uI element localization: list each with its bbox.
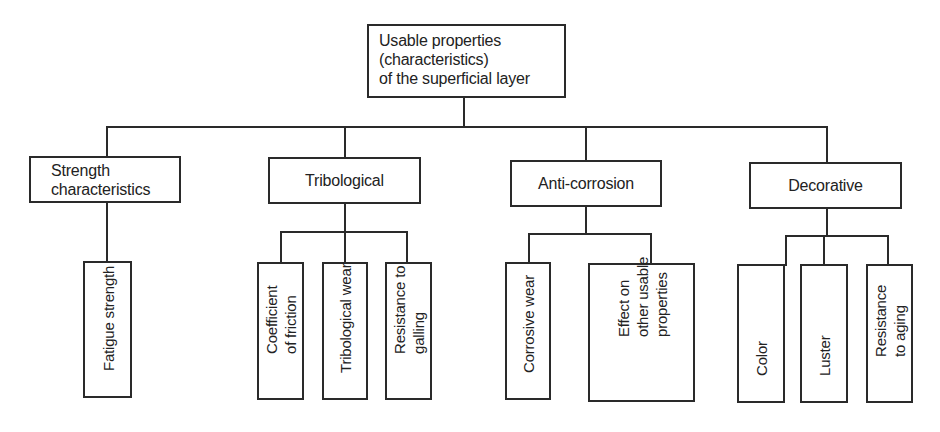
leaf-label-luster: Luster xyxy=(815,336,834,377)
strength-child-connector xyxy=(106,202,108,263)
root-node-label: Usable properties (characteristics) of t… xyxy=(379,31,530,88)
leaf-node-luster: Luster xyxy=(800,264,848,403)
leaf-node-corrosive-wear: Corrosive wear xyxy=(505,262,551,400)
decorative-drop-1 xyxy=(785,235,787,266)
decorative-bus-connector xyxy=(785,235,889,237)
category-node-tribological: Tribological xyxy=(268,157,421,204)
leaf-label-corrosive-wear: Corrosive wear xyxy=(519,275,538,373)
drop-connector-tribological xyxy=(344,126,346,158)
category-label-strength: Strength characteristics xyxy=(31,158,179,201)
category-label-tribological: Tribological xyxy=(270,159,419,202)
leaf-node-fatigue-strength: Fatigue strength xyxy=(83,261,132,398)
leaf-node-color: Color xyxy=(737,264,785,403)
drop-connector-strength xyxy=(106,126,108,157)
leaf-node-effect-on-other-usable-properties: Effect on other usable properties xyxy=(588,263,695,402)
leaf-label-resistance-to-aging: Resistance to aging xyxy=(871,285,909,357)
leaf-node-tribological-wear: Tribological wear xyxy=(322,262,368,400)
leaf-node-resistance-to-aging: Resistance to aging xyxy=(866,264,913,403)
leaf-label-resistance-to-galling: Resistance to galling xyxy=(390,266,428,354)
decorative-stem-connector xyxy=(826,208,828,237)
decorative-drop-3 xyxy=(887,235,889,267)
category-node-strength: Strength characteristics xyxy=(29,156,181,203)
drop-connector-decorative xyxy=(826,127,828,163)
root-stem-connector xyxy=(463,97,465,128)
category-node-decorative: Decorative xyxy=(749,162,902,209)
category-label-anti-corrosion: Anti-corrosion xyxy=(512,162,660,205)
leaf-node-resistance-to-galling: Resistance to galling xyxy=(385,262,432,400)
leaf-label-fatigue-strength: Fatigue strength xyxy=(99,266,118,371)
category-node-anti-corrosion: Anti-corrosion xyxy=(510,160,662,207)
drop-connector-anti-corrosion xyxy=(585,127,587,161)
leaf-node-coefficient-of-friction: Coefficient of friction xyxy=(257,262,304,400)
category-label-decorative: Decorative xyxy=(751,164,900,207)
leaf-label-color: Color xyxy=(752,341,771,376)
tribological-drop-2 xyxy=(344,231,346,263)
decorative-drop-2 xyxy=(823,235,825,266)
anti-corrosion-drop-1 xyxy=(528,233,530,264)
property-tree-diagram: Usable properties (characteristics) of t… xyxy=(0,0,940,432)
anti-corrosion-bus-connector xyxy=(528,233,652,235)
main-bus-connector xyxy=(106,126,828,128)
leaf-label-coefficient-of-friction: Coefficient of friction xyxy=(262,286,300,354)
leaf-label-tribological-wear: Tribological wear xyxy=(336,264,355,373)
tribological-stem-connector xyxy=(344,203,346,233)
leaf-label-effect-on-other-usable-properties: Effect on other usable properties xyxy=(614,257,671,337)
anti-corrosion-stem-connector xyxy=(585,206,587,235)
root-node: Usable properties (characteristics) of t… xyxy=(367,24,566,98)
tribological-drop-3 xyxy=(406,231,408,264)
tribological-drop-1 xyxy=(280,231,282,263)
